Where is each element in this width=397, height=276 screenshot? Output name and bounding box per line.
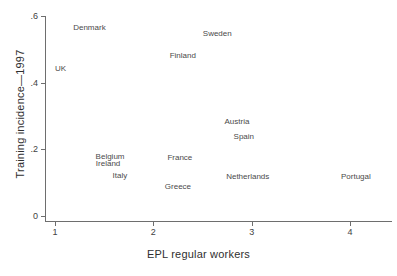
x-tick-mark xyxy=(55,222,56,226)
x-tick-mark xyxy=(252,222,253,226)
data-point-label: Denmark xyxy=(73,24,105,32)
data-point-label: Italy xyxy=(113,172,128,180)
x-axis-title: EPL regular workers xyxy=(0,248,397,260)
data-point-label: Netherlands xyxy=(226,173,269,181)
x-tick-label: 1 xyxy=(52,228,57,237)
data-point-label: Sweden xyxy=(203,30,232,38)
y-tick-label: .6 xyxy=(30,12,38,21)
data-point-label: Austria xyxy=(224,118,249,126)
data-point-label: Spain xyxy=(234,133,254,141)
x-tick-label: 2 xyxy=(151,228,156,237)
x-axis-line xyxy=(45,221,392,222)
scatter-plot-figure: .6.4.20 1234 DenmarkUKSwedenFinlandAustr… xyxy=(0,0,397,276)
data-point-label: Portugal xyxy=(341,173,371,181)
data-point-label: UK xyxy=(55,65,66,73)
y-tick-mark xyxy=(41,216,45,217)
y-tick-label: 0 xyxy=(33,212,38,221)
data-point-label: France xyxy=(167,154,192,162)
data-point-label: Ireland xyxy=(96,160,120,168)
y-axis-line xyxy=(45,16,46,222)
y-tick-label: .2 xyxy=(30,145,38,154)
y-tick-mark xyxy=(41,149,45,150)
y-tick-mark xyxy=(41,16,45,17)
x-tick-label: 3 xyxy=(249,228,254,237)
y-tick-mark xyxy=(41,83,45,84)
data-point-label: Finland xyxy=(170,52,196,60)
data-point-label: Greece xyxy=(165,183,191,191)
y-tick-label: .4 xyxy=(30,78,38,87)
x-tick-mark xyxy=(153,222,154,226)
x-tick-label: 4 xyxy=(347,228,352,237)
x-tick-mark xyxy=(350,222,351,226)
y-axis-title: Training incidence—1997 xyxy=(14,9,26,219)
